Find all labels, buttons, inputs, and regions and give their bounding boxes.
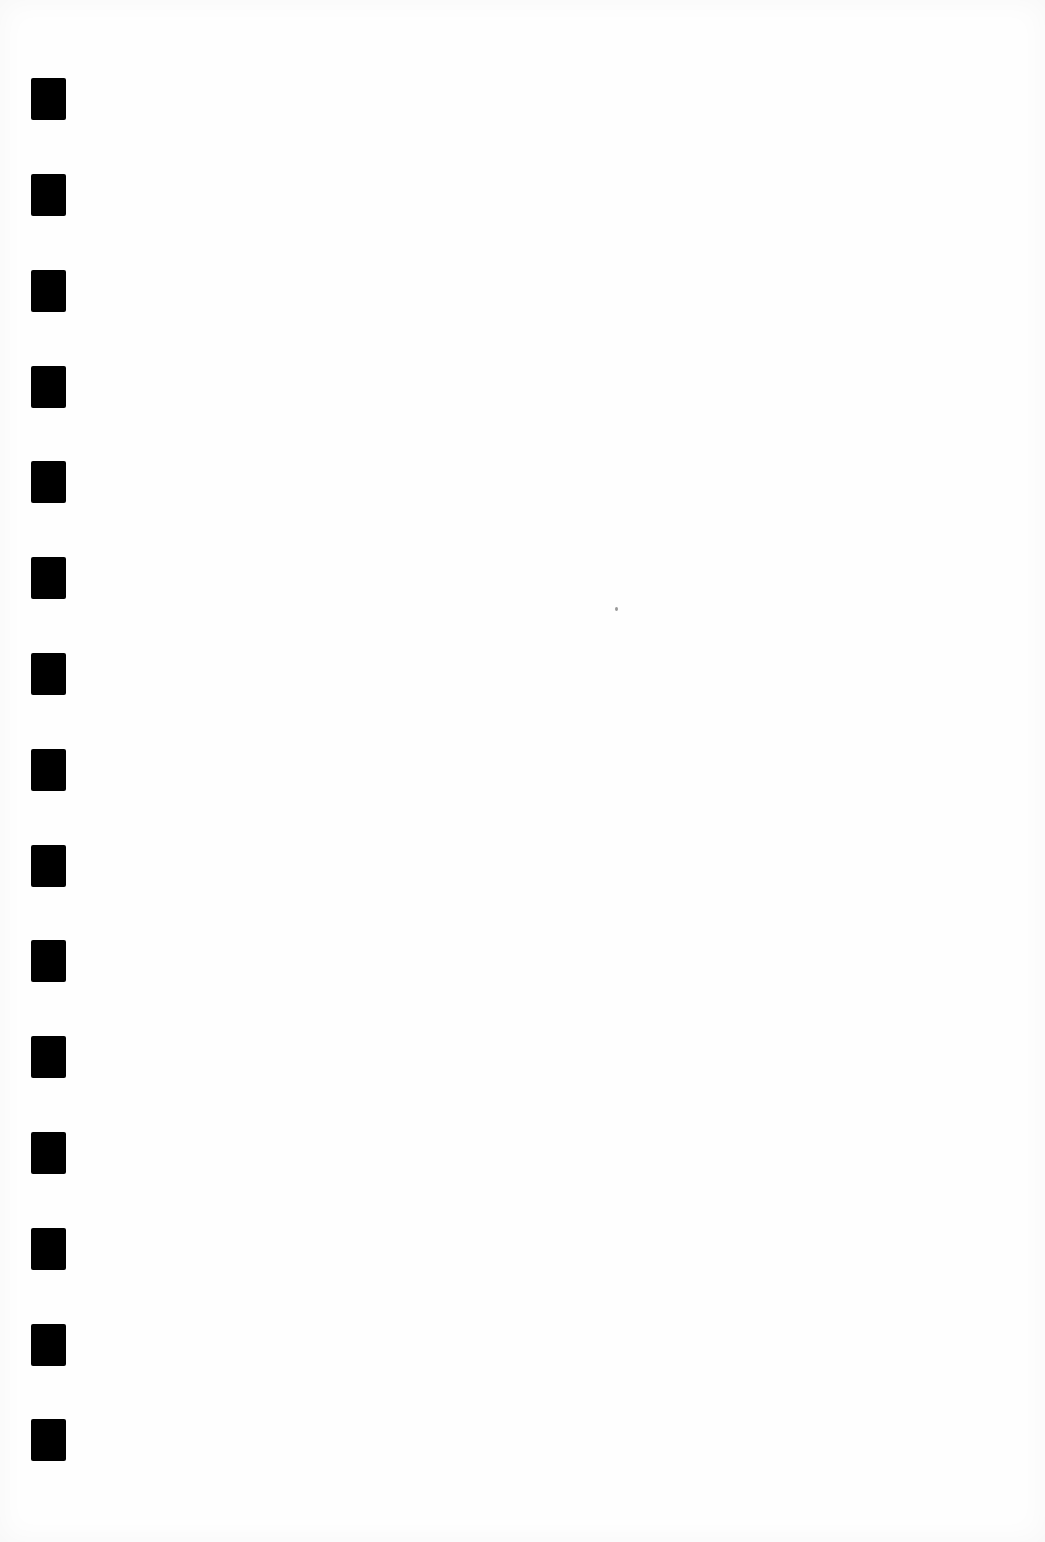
binding-hole xyxy=(31,1324,66,1366)
scan-speck xyxy=(615,607,618,611)
binding-hole xyxy=(31,1228,66,1270)
binding-hole xyxy=(31,366,66,408)
binding-hole xyxy=(31,940,66,982)
binding-hole xyxy=(31,1036,66,1078)
binding-hole xyxy=(31,270,66,312)
binding-hole xyxy=(31,557,66,599)
binding-hole xyxy=(31,653,66,695)
binding-hole xyxy=(31,1419,66,1461)
binding-hole xyxy=(31,845,66,887)
binding-hole xyxy=(31,174,66,216)
blank-page xyxy=(0,0,1045,1542)
binding-hole xyxy=(31,749,66,791)
binding-hole xyxy=(31,461,66,503)
binding-hole xyxy=(31,78,66,120)
binding-hole xyxy=(31,1132,66,1174)
